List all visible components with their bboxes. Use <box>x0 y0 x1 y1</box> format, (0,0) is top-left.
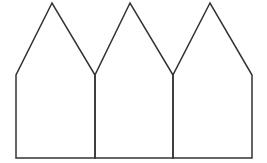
diagram-canvas <box>0 0 267 163</box>
house-2-outline <box>95 3 173 158</box>
house-3-outline <box>173 3 252 158</box>
houses-group <box>16 3 252 158</box>
three-houses-drawing <box>0 0 267 163</box>
house-1-outline <box>16 3 95 158</box>
